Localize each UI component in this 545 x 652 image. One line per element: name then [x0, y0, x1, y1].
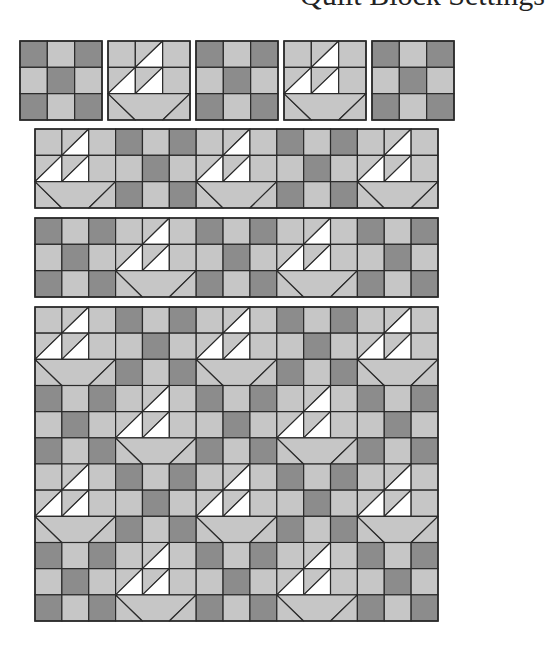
- nine-patch-block: [196, 386, 277, 465]
- sailboat-block: [277, 386, 358, 465]
- nine-patch-block: [35, 386, 116, 465]
- row-strip-a: [35, 129, 438, 208]
- nine-patch-block: [372, 41, 454, 120]
- sailboat-block: [116, 543, 197, 622]
- sailboat-block: [116, 386, 197, 465]
- nine-patch-block: [116, 307, 197, 386]
- sailboat-block: [35, 464, 116, 543]
- assembled-quilt: [35, 307, 438, 621]
- sailboat-block: [357, 129, 438, 208]
- nine-patch-block: [277, 464, 358, 543]
- nine-patch-block: [196, 218, 277, 297]
- nine-patch-block: [35, 543, 116, 622]
- row-strip-b: [35, 218, 438, 297]
- nine-patch-block: [357, 218, 438, 297]
- nine-patch-block: [116, 464, 197, 543]
- nine-patch-block: [20, 41, 102, 120]
- sailboat-block: [35, 129, 116, 208]
- individual-blocks-row: [20, 41, 454, 120]
- sailboat-block: [277, 543, 358, 622]
- sailboat-block: [357, 307, 438, 386]
- nine-patch-block: [277, 129, 358, 208]
- nine-patch-block: [196, 41, 278, 120]
- nine-patch-block: [357, 386, 438, 465]
- sailboat-block: [196, 307, 277, 386]
- sailboat-block: [196, 129, 277, 208]
- sailboat-block: [284, 41, 366, 120]
- sailboat-block: [277, 218, 358, 297]
- sailboat-block: [196, 464, 277, 543]
- nine-patch-block: [196, 543, 277, 622]
- sailboat-block: [116, 218, 197, 297]
- sailboat-block: [108, 41, 190, 120]
- nine-patch-block: [357, 543, 438, 622]
- nine-patch-block: [277, 307, 358, 386]
- nine-patch-block: [35, 218, 116, 297]
- sailboat-block: [357, 464, 438, 543]
- nine-patch-block: [116, 129, 197, 208]
- sailboat-block: [35, 307, 116, 386]
